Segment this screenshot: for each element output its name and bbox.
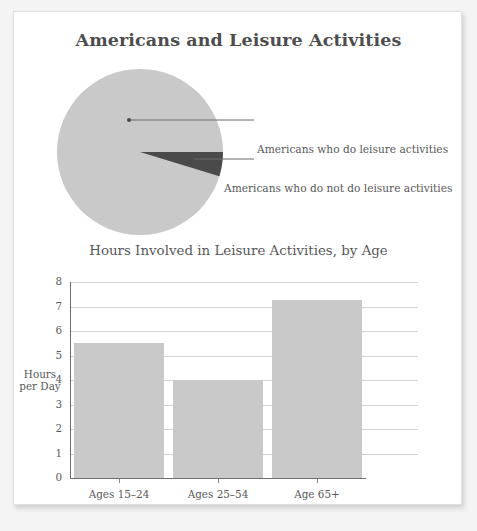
pie-label-no-leisure: Americans who do not do leisure activiti…: [224, 182, 452, 194]
x-axis-tick-mark: [119, 479, 120, 483]
page-background: Americans and Leisure Activities America…: [0, 0, 477, 531]
y-axis-tick-label: 7: [40, 300, 62, 312]
y-axis-tick-label: 2: [40, 422, 62, 434]
y-axis-tick-label: 6: [40, 324, 62, 336]
gridline: [70, 282, 418, 283]
pie-leader-dot-leisure: [127, 118, 131, 122]
gridline: [70, 307, 418, 308]
bar: [272, 300, 362, 478]
pie-label-leisure: Americans who do leisure activities: [257, 143, 448, 155]
y-axis-tick-label: 3: [40, 398, 62, 410]
gridline: [70, 331, 418, 332]
x-axis-tick-mark: [218, 479, 219, 483]
pie-chart: Americans who do leisure activities Amer…: [14, 54, 463, 244]
y-axis-tick-label: 4: [40, 373, 62, 385]
x-axis-tick-mark: [317, 479, 318, 483]
y-axis-tick-label: 1: [40, 447, 62, 459]
x-axis-tick-label: Age 65+: [247, 488, 387, 500]
page-title: Americans and Leisure Activities: [14, 30, 463, 50]
y-axis-tick-label: 5: [40, 349, 62, 361]
y-axis-line: [70, 282, 71, 478]
y-axis-tick-label: 0: [40, 471, 62, 483]
bar-chart: Hours per Day 876543210 Ages 15–24Ages 2…: [14, 270, 463, 506]
bar: [173, 380, 263, 478]
bar-chart-title: Hours Involved in Leisure Activities, by…: [14, 243, 463, 258]
bar: [74, 343, 164, 478]
infographic-card: Americans and Leisure Activities America…: [13, 11, 462, 505]
y-axis-tick-label: 8: [40, 275, 62, 287]
